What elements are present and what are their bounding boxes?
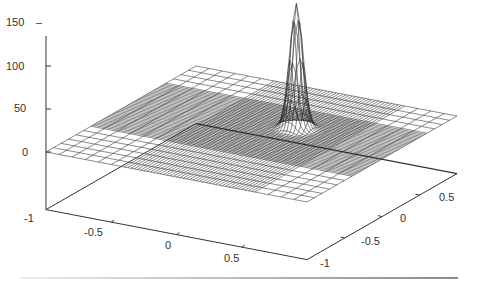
y-tick-label-minus-1: -1 [320,258,330,269]
x-tick-label-0.5: 0.5 [224,253,239,264]
surface-plot [0,0,480,291]
y-tick-label-minus-0.5: -0.5 [361,236,380,247]
wireframe-mesh [46,4,457,202]
x-tick-label-0: 0 [165,240,171,251]
z-tick-mark-150: – [36,17,42,28]
z-tick-label-0: 0 [22,147,28,158]
bottom-separator [20,277,458,279]
z-tick-label-100: 100 [6,61,24,72]
z-tick-label-50: 50 [14,103,26,114]
z-tick-label-150: 150 [6,17,24,28]
y-tick-label-0: 0 [400,213,406,224]
y-tick-label-0.5: 0.5 [439,192,454,203]
x-tick-label-minus-1: -1 [24,213,34,224]
x-tick-label-minus-0.5: -0.5 [84,227,103,238]
